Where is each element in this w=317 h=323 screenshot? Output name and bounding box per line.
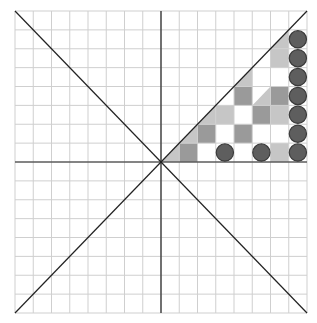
board-cell[interactable] xyxy=(198,124,216,143)
board-cell[interactable] xyxy=(234,87,252,106)
axis-lines xyxy=(15,11,307,313)
game-piece[interactable] xyxy=(289,50,306,67)
game-piece[interactable] xyxy=(253,144,270,161)
board-cell[interactable] xyxy=(271,105,289,124)
game-piece[interactable] xyxy=(289,31,306,48)
board-cell[interactable] xyxy=(271,87,289,106)
board-cell[interactable] xyxy=(179,143,197,162)
game-piece[interactable] xyxy=(289,106,306,123)
board-cell[interactable] xyxy=(234,124,252,143)
game-piece[interactable] xyxy=(289,87,306,104)
board-cell[interactable] xyxy=(252,87,270,106)
board-cell[interactable] xyxy=(271,49,289,68)
board-cell[interactable] xyxy=(216,105,234,124)
board-cell[interactable] xyxy=(271,143,289,162)
game-piece[interactable] xyxy=(289,125,306,142)
game-piece[interactable] xyxy=(289,68,306,85)
game-piece[interactable] xyxy=(289,144,306,161)
game-board[interactable] xyxy=(0,0,317,323)
game-piece[interactable] xyxy=(216,144,233,161)
board-cell[interactable] xyxy=(252,105,270,124)
